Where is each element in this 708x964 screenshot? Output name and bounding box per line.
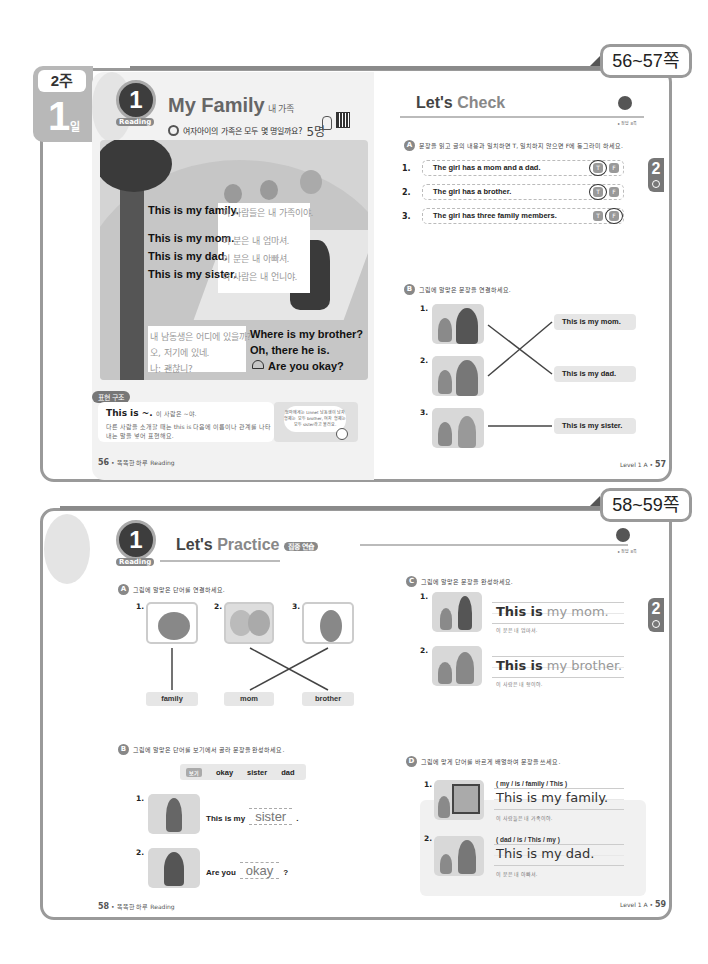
page-range-tab: 58~59쪽 <box>600 488 692 522</box>
unit-side-tab[interactable]: 2 <box>648 158 664 192</box>
section-b-heading: B 그림에 알맞은 문장을 연결하세요. <box>404 284 511 295</box>
title-korean: 내 가족 <box>268 104 295 114</box>
fill-sentence-1: This is my sister . <box>206 808 298 825</box>
lets-check-title: Let's Check <box>416 94 505 112</box>
footer-right: Level 1 A • 59 <box>620 900 666 909</box>
answer-circle <box>589 160 607 176</box>
footer-left: 56 • 똑똑한 하루 Reading <box>98 458 175 467</box>
picture-brother <box>148 848 200 888</box>
mascot-icon <box>618 96 632 110</box>
match-num-2: 2. <box>420 356 428 365</box>
c-ko-2: 이 사람은 내 형이야. <box>496 680 542 687</box>
picture-girl-mom <box>432 356 484 396</box>
tf-row-1: The girl has a mom and a dad. T F <box>422 160 624 176</box>
tf-num-3: 3. <box>402 212 411 221</box>
match-answer-2[interactable]: This is my dad. <box>554 366 636 382</box>
tf-row-2: The girl has a brother. T F <box>422 184 624 200</box>
day-badge: 1 <box>116 520 156 560</box>
section-b-heading: B 그림에 알맞은 단어를 보기에서 골라 문장을 완성하세요. <box>118 744 284 755</box>
trace-sentence-1: This is my mom. <box>496 604 609 619</box>
picture-two-girls <box>432 408 484 448</box>
question-icon <box>168 125 179 136</box>
page-title: My Family내 가족 <box>168 94 294 117</box>
tab-notch <box>590 56 600 66</box>
word-num-2: 2. <box>214 602 222 611</box>
page-range-tab: 56~57쪽 <box>600 44 692 78</box>
story-line-1-ko: 이 사람들은 내 가족이야. <box>222 206 313 219</box>
title-rule-right <box>360 544 628 546</box>
grammar-title: This is ~.이 사람은 ~야. <box>106 408 196 418</box>
word-bank: 보기 okay sister dad <box>180 764 306 780</box>
word-brother[interactable]: brother <box>302 692 354 706</box>
mascot-icon <box>616 528 630 542</box>
title-text: My Family <box>168 94 265 116</box>
picture-dad <box>434 836 484 876</box>
fill-answer[interactable]: okay <box>240 862 279 879</box>
badge-label: Reading <box>116 118 154 126</box>
dialogue-2: Oh, there he is. <box>250 344 329 356</box>
badge-halo <box>44 514 90 584</box>
word-family[interactable]: family <box>146 692 198 706</box>
qr-code-icon[interactable] <box>336 112 350 128</box>
section-a-heading: A 그림에 알맞은 단어를 연결하세요. <box>118 584 225 595</box>
false-button[interactable]: F <box>609 163 619 173</box>
section-a-heading: A 문장을 읽고 글의 내용과 일치하면 T, 일치하지 않으면 F에 동그라미… <box>404 140 623 151</box>
day-number: 1 <box>48 96 70 136</box>
unit-side-tab[interactable]: 2 <box>648 598 664 632</box>
section-a-instruction: 문장을 읽고 글의 내용과 일치하면 T, 일치하지 않으면 F에 동그라미 하… <box>419 141 623 150</box>
day-unit: 일 <box>70 118 80 134</box>
false-button[interactable]: F <box>609 187 619 197</box>
dialogue-3: Are you okay? <box>268 360 344 372</box>
scramble-words-1: ( my / is / family / This ) <box>496 780 567 787</box>
tab-notch <box>590 496 600 506</box>
dialogue-1-ko: 내 남동생은 어디에 있을까? <box>150 330 251 343</box>
picture-sister <box>148 794 200 834</box>
photo-sisters <box>224 602 274 644</box>
picture-mom <box>432 592 482 632</box>
d-num-1: 1. <box>424 780 432 789</box>
badge-number: 1 <box>129 86 142 113</box>
match-num-3: 3. <box>420 408 428 417</box>
section-b-icon: B <box>404 284 415 295</box>
bank-word: okay <box>216 768 233 777</box>
bank-word: dad <box>281 768 294 777</box>
dialogue-3-ko: 나: 괜찮니? <box>150 362 193 375</box>
section-a-icon: A <box>404 140 415 151</box>
title-tag: 집중 연습 <box>284 542 318 551</box>
answer-ref[interactable]: ▸ 정답 8쪽 <box>618 548 637 554</box>
picture-family-frame <box>434 780 484 820</box>
footer-left: 58 • 똑똑한 하루 Reading <box>98 902 175 911</box>
badge-label: Reading <box>116 558 154 566</box>
section-d-heading: D 그림에 맞게 단어를 바르게 배열하여 문장을 쓰세요. <box>406 756 560 767</box>
title-rule <box>400 116 644 118</box>
c-ko-1: 이 분은 내 엄마셔. <box>496 626 537 633</box>
dialogue-1: Where is my brother? <box>250 328 363 340</box>
section-b-instruction: 그림에 알맞은 문장을 연결하세요. <box>419 285 511 294</box>
dialogue-2-ko: 오, 저기에 있네. <box>150 346 209 359</box>
answer-ref[interactable]: ▸ 정답 8쪽 <box>618 120 637 126</box>
footer-right: Level 1 A • 57 <box>620 460 666 469</box>
match-answer-3[interactable]: This is my sister. <box>554 418 636 434</box>
story-line-4-ko: 이 사람은 내 언니야. <box>222 270 297 283</box>
match-answer-1[interactable]: This is my mom. <box>554 314 636 330</box>
written-answer-2: This is my dad. <box>496 846 594 861</box>
word-num-1: 1. <box>136 602 144 611</box>
top-rule <box>60 506 600 510</box>
true-button[interactable]: T <box>593 211 603 221</box>
story-line-3: This is my dad. <box>148 250 227 262</box>
fill-answer[interactable]: sister <box>249 808 292 825</box>
picture-girl-dad <box>432 304 484 344</box>
title-rule-left <box>160 560 280 562</box>
d-ko-2: 이 분은 내 아빠셔. <box>496 870 537 877</box>
word-mom[interactable]: mom <box>224 692 274 706</box>
tf-row-3: The girl has three family members. T F <box>422 208 624 224</box>
tip-mascot-icon <box>336 428 348 440</box>
grammar-box: This is ~.이 사람은 ~야. 다른 사람을 소개할 때는 this i… <box>98 402 274 442</box>
c-num-2: 2. <box>420 646 428 655</box>
bank-tag: 보기 <box>186 768 202 777</box>
fill-num-2: 2. <box>136 848 144 857</box>
audio-character-icon[interactable] <box>322 116 332 130</box>
story-line-2-ko: 이 분은 내 엄마셔. <box>222 234 289 247</box>
section-c-heading: C 그림에 알맞은 문장을 완성하세요. <box>406 576 513 587</box>
answer-circle <box>605 208 623 224</box>
